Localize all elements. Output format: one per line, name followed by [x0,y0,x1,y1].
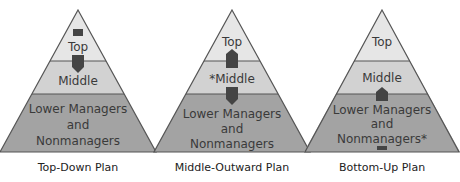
caption-top-down: Top-Down Plan [37,161,119,174]
lower-label-line1: Lower Managers [29,102,128,116]
lower-label-line1: Lower Managers [183,107,282,121]
arrow-tail-icon [377,146,387,150]
middle-label: Middle [58,74,98,88]
top-label: Top [221,35,242,49]
planning-pyramids-diagram: Top Middle Lower Managers and Nonmanager… [0,0,460,182]
top-label: Top [67,40,88,54]
pyramid-top-down: Top Middle Lower Managers and Nonmanager… [0,10,156,174]
lower-label-line3: Nonmanagers* [337,132,427,146]
pyramid-middle-outward: Top *Middle Lower Managers and Nonmanage… [154,10,310,174]
middle-label: *Middle [209,72,255,86]
middle-label: Middle [362,71,402,85]
lower-label-line2: and [371,117,394,131]
lower-label-line1: Lower Managers [333,103,432,117]
lower-label-line3: Nonmanagers [190,137,274,151]
lower-label-line2: and [67,118,90,132]
lower-label-line2: and [221,122,244,136]
lower-label-line3: Nonmanagers [36,134,120,148]
top-label: Top [371,35,392,49]
caption-bottom-up: Bottom-Up Plan [339,161,425,174]
caption-middle-outward: Middle-Outward Plan [175,161,290,174]
pyramid-bottom-up: Top Middle Lower Managers and Nonmanager… [304,10,460,174]
arrow-tail-icon [73,29,83,36]
